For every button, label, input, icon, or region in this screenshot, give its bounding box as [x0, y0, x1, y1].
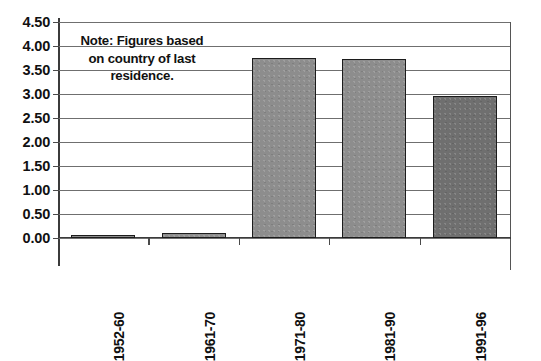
x-axis-tick-mark: [420, 238, 421, 245]
bar: [342, 59, 406, 238]
y-axis-tick-label: 1.50: [23, 158, 50, 174]
y-axis-tick-labels: 0.000.501.001.502.002.503.003.504.004.50: [0, 0, 58, 315]
chart-note-line: Note: Figures based: [66, 32, 218, 50]
x-axis-category-label: 1952-60: [111, 312, 127, 361]
x-axis-tick-mark: [148, 238, 149, 245]
bar: [71, 235, 135, 238]
x-axis-category-label: 1991-96: [473, 312, 489, 361]
y-axis-tick-label: 2.00: [23, 134, 50, 150]
chart-note-line: on country of last: [66, 50, 218, 68]
bar: [252, 58, 316, 238]
x-axis-category-label: 1961-70: [202, 312, 218, 361]
chart-note-annotation: Note: Figures basedon country of lastres…: [66, 32, 218, 85]
y-axis-tick-label: 0.50: [23, 206, 50, 222]
y-axis-tick-label: 0.00: [23, 230, 50, 246]
y-axis-tick-label: 4.00: [23, 38, 50, 54]
y-axis-tick-label: 4.50: [23, 14, 50, 30]
x-axis-tick-mark: [329, 238, 330, 245]
bar: [433, 96, 497, 238]
bar: [162, 233, 226, 238]
plot-right-border: [510, 22, 511, 270]
x-axis-category-labels: 1952-601961-701971-801981-901991-96: [58, 248, 510, 315]
y-axis-tick-label: 3.00: [23, 86, 50, 102]
y-axis-tick-mark: [53, 238, 59, 239]
gridline: [58, 238, 510, 239]
x-axis-category-label: 1981-90: [382, 312, 398, 361]
y-axis-tick-label: 1.00: [23, 182, 50, 198]
x-axis-tick-mark: [239, 238, 240, 245]
y-axis-tick-label: 2.50: [23, 110, 50, 126]
chart-note-line: residence.: [66, 67, 218, 85]
x-axis-category-label: 1971-80: [292, 312, 308, 361]
y-axis-tick-label: 3.50: [23, 62, 50, 78]
